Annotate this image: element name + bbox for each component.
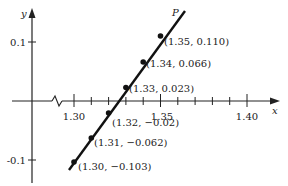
y-axis-arrow-icon [29,8,36,18]
y-tick-label: 0.1 [10,37,26,48]
x-tick-label: 1.30 [63,111,85,122]
point-annotation: (1.34, 0.066) [146,58,211,69]
axis-break-icon [52,96,62,106]
chart-container: y 0.1 -0.1 x 1.30 1.35 1.40 [0,0,288,186]
x-tick-label: 1.40 [236,111,258,122]
curve-label: P [171,7,179,18]
data-point [106,110,112,116]
data-point [71,159,77,165]
data-point [158,33,164,39]
point-annotation: (1.35, 0.110) [164,36,229,47]
chart-svg: y 0.1 -0.1 x 1.30 1.35 1.40 [0,0,288,186]
y-tick-label: -0.1 [7,155,26,166]
y-axis-label: y [20,8,27,19]
point-annotation: (1.33, 0.023) [129,83,194,94]
point-annotation: (1.32, −0.02) [112,117,179,128]
x-axis-label: x [272,105,278,116]
point-annotation: (1.31, −0.062) [94,137,168,148]
point-annotation: (1.30, −0.103) [78,161,152,172]
data-point [123,85,129,91]
x-axis-arrow-icon [270,98,280,105]
